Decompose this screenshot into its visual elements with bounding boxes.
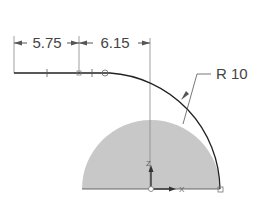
dimension-left-value: 5.75 [32,34,61,51]
dimension-6-15[interactable]: 6.15 [79,34,150,51]
dimension-5-75[interactable]: 5.75 [14,34,79,51]
dimension-right-value: 6.15 [100,34,129,51]
origin-point-icon [149,187,154,192]
sketch-canvas: 5.75 6.15 R 10 Z X [0,0,265,206]
axis-x-label: X [179,185,185,194]
radius-dimension[interactable]: R 10 [181,65,248,124]
radius-value: R 10 [216,65,248,82]
axis-z-label: Z [146,159,151,168]
